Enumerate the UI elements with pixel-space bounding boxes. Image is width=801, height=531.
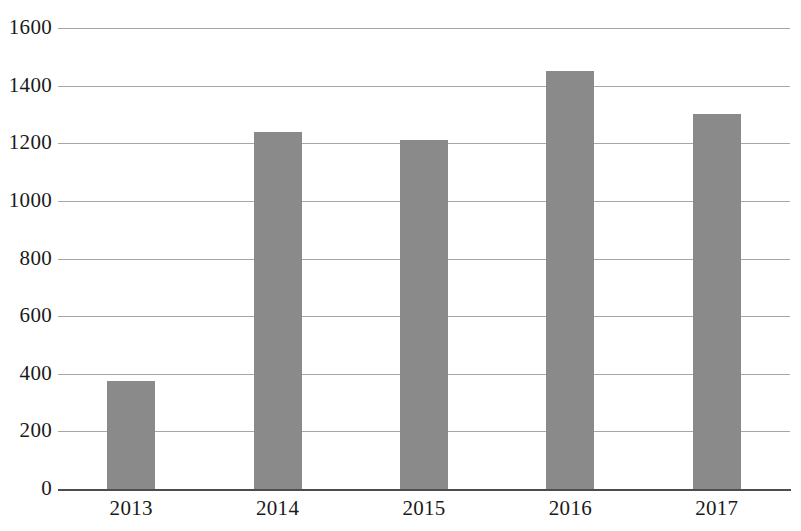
y-axis-tick-label: 1600 xyxy=(6,17,52,38)
bar-chart: 16001400120010008006004002000 2013201420… xyxy=(0,0,801,531)
y-axis-tick-label: 200 xyxy=(6,420,52,441)
y-axis-tick-label: 1000 xyxy=(6,190,52,211)
y-axis-tick-label: 1200 xyxy=(6,132,52,153)
y-axis-tick-label: 800 xyxy=(6,248,52,269)
x-axis-tick-label: 2016 xyxy=(510,496,630,520)
y-axis-tick-label: 400 xyxy=(6,363,52,384)
bar[interactable] xyxy=(254,132,302,489)
x-axis-line xyxy=(58,489,791,491)
x-axis-tick-label: 2017 xyxy=(657,496,777,520)
y-axis-tick-label: 600 xyxy=(6,305,52,326)
bar[interactable] xyxy=(693,114,741,489)
bar[interactable] xyxy=(107,381,155,489)
x-axis-tick-label: 2014 xyxy=(218,496,338,520)
bars-layer xyxy=(58,28,790,489)
y-axis-tick-label: 0 xyxy=(6,478,52,499)
bar[interactable] xyxy=(546,71,594,489)
bar[interactable] xyxy=(400,140,448,489)
x-axis-tick-label: 2013 xyxy=(71,496,191,520)
x-axis-tick-label: 2015 xyxy=(364,496,484,520)
y-axis-tick-label: 1400 xyxy=(6,75,52,96)
y-axis-tick-labels: 16001400120010008006004002000 xyxy=(0,0,52,531)
